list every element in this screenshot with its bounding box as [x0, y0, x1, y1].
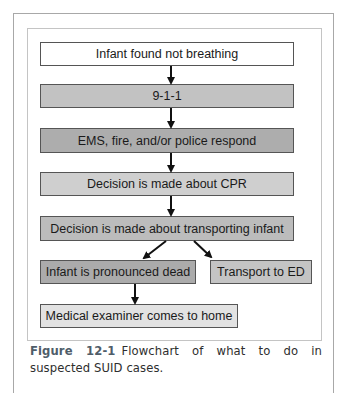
node-infant-found-not-breathing: Infant found not breathing: [40, 42, 294, 66]
figure-caption: Figure 12-1Flowchart of what to do in su…: [30, 343, 322, 377]
node-label: Infant found not breathing: [96, 47, 238, 61]
node-transport-to-ed: Transport to ED: [210, 260, 312, 284]
figure-label: Figure 12-1: [30, 344, 116, 358]
node-ems-respond: EMS, fire, and/or police respond: [40, 128, 294, 153]
node-label: EMS, fire, and/or police respond: [78, 134, 257, 148]
node-label: Medical examiner comes to home: [46, 309, 233, 323]
node-label: Transport to ED: [217, 265, 305, 279]
node-label: Decision is made about transporting infa…: [50, 222, 283, 236]
node-pronounced-dead: Infant is pronounced dead: [40, 260, 196, 284]
node-transport-decision: Decision is made about transporting infa…: [40, 216, 294, 241]
node-label: Infant is pronounced dead: [46, 265, 191, 279]
node-medical-examiner: Medical examiner comes to home: [40, 304, 238, 328]
node-label: 9-1-1: [152, 89, 181, 103]
node-cpr-decision: Decision is made about CPR: [40, 172, 294, 196]
node-label: Decision is made about CPR: [87, 177, 247, 191]
node-call-911: 9-1-1: [40, 84, 294, 108]
